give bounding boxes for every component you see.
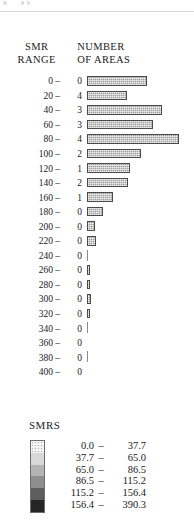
count-label: 0 — [60, 324, 87, 334]
range-label: 40 – — [0, 105, 60, 115]
legend-row: 156.4–390.3 — [56, 499, 146, 511]
smrs-legend: SMRS 0.0–37.737.7–65.065.0–86.586.5–115.… — [0, 419, 194, 513]
bar-track — [87, 365, 194, 380]
histogram-row: 20 –4 — [0, 89, 194, 104]
count-label: 0 — [60, 207, 87, 217]
legend-high-value: 115.2 — [108, 475, 146, 487]
histogram-bar — [87, 192, 113, 202]
histogram-bar — [87, 265, 90, 275]
range-label: 100 – — [0, 149, 60, 159]
legend-body: 0.0–37.737.7–65.065.0–86.586.5–115.2115.… — [0, 440, 194, 513]
histogram-rows: 0 –020 –440 –360 –380 –4100 –2120 –1140 … — [0, 74, 194, 379]
histogram-row: 360 –0 — [0, 336, 194, 351]
histogram-bar — [87, 309, 90, 319]
legend-dash: – — [94, 475, 108, 487]
legend-row: 115.2–156.4 — [56, 487, 146, 499]
range-label: 60 – — [0, 120, 60, 130]
range-label: 380 – — [0, 353, 60, 363]
histogram-bar — [87, 178, 128, 188]
count-label: 0 — [60, 251, 87, 261]
histogram-bar — [87, 163, 130, 173]
legend-row: 37.7–65.0 — [56, 452, 146, 464]
range-label: 80 – — [0, 134, 60, 144]
histogram-bar — [87, 236, 96, 246]
range-label: 180 – — [0, 207, 60, 217]
range-label: 220 – — [0, 236, 60, 246]
range-label: 160 – — [0, 193, 60, 203]
bar-track — [87, 176, 194, 191]
legend-row: 86.5–115.2 — [56, 475, 146, 487]
count-label: 2 — [60, 149, 87, 159]
histogram-row: 80 –4 — [0, 132, 194, 147]
histogram-bar — [87, 294, 91, 304]
bar-track — [87, 205, 194, 220]
legend-low-value: 37.7 — [56, 452, 94, 464]
histogram-row: 240 –0 — [0, 249, 194, 264]
legend-swatch — [31, 500, 44, 512]
count-label: 4 — [60, 134, 87, 144]
legend-title: SMRS — [0, 419, 194, 431]
legend-swatch — [31, 465, 44, 477]
range-label: 240 – — [0, 251, 60, 261]
histogram-row: 120 –1 — [0, 161, 194, 176]
count-label: 0 — [60, 309, 87, 319]
legend-high-value: 156.4 — [108, 487, 146, 499]
legend-dash: – — [94, 499, 108, 511]
histogram-row: 220 –0 — [0, 234, 194, 249]
histogram-bar — [87, 134, 179, 144]
count-label: 0 — [60, 353, 87, 363]
bar-track — [87, 350, 194, 365]
range-label: 360 – — [0, 338, 60, 348]
count-label: 0 — [60, 367, 87, 377]
histogram-row: 300 –0 — [0, 292, 194, 307]
bar-track — [87, 321, 194, 336]
histogram-row: 180 –0 — [0, 205, 194, 220]
histogram-row: 340 –0 — [0, 321, 194, 336]
count-label: 3 — [60, 120, 87, 130]
legend-low-value: 156.4 — [56, 499, 94, 511]
range-label: 320 – — [0, 309, 60, 319]
legend-dash: – — [94, 487, 108, 499]
histogram-row: 400 –0 — [0, 365, 194, 380]
bar-track — [87, 307, 194, 322]
legend-dash: – — [94, 452, 108, 464]
legend-low-value: 0.0 — [56, 440, 94, 452]
smr-range-header: SMR RANGE — [0, 40, 73, 66]
count-label: 0 — [60, 76, 87, 86]
bar-track — [87, 161, 194, 176]
bar-track — [87, 249, 194, 264]
histogram-row: 140 –2 — [0, 176, 194, 191]
histogram-bar — [87, 105, 162, 115]
bar-track — [87, 219, 194, 234]
number-of-areas-header-line2: OF AREAS — [77, 53, 194, 66]
count-label: 2 — [60, 178, 87, 188]
bar-track — [87, 336, 194, 351]
legend-high-value: 37.7 — [108, 440, 146, 452]
range-label: 340 – — [0, 324, 60, 334]
column-headers: SMR RANGE NUMBER OF AREAS — [0, 40, 194, 66]
range-label: 20 – — [0, 91, 60, 101]
legend-low-value: 115.2 — [56, 487, 94, 499]
count-label: 0 — [60, 294, 87, 304]
legend-swatch — [31, 476, 44, 488]
histogram-row: 200 –0 — [0, 219, 194, 234]
count-label: 0 — [60, 338, 87, 348]
number-of-areas-header-line1: NUMBER — [77, 40, 194, 53]
range-label: 140 – — [0, 178, 60, 188]
histogram-bar — [87, 91, 127, 101]
histogram-bar — [87, 221, 95, 231]
histogram-row: 380 –0 — [0, 350, 194, 365]
histogram-row: 320 –0 — [0, 307, 194, 322]
legend-swatch — [31, 453, 44, 465]
bar-track — [87, 74, 194, 89]
legend-high-value: 86.5 — [108, 464, 146, 476]
histogram-bar — [87, 351, 88, 362]
histogram-bar — [87, 280, 90, 290]
bar-track — [87, 292, 194, 307]
smr-range-header-line1: SMR — [0, 40, 73, 53]
count-label: 0 — [60, 280, 87, 290]
histogram-row: 100 –2 — [0, 147, 194, 162]
histogram-bar — [87, 322, 88, 333]
bar-track — [87, 89, 194, 104]
bar-track — [87, 132, 194, 147]
